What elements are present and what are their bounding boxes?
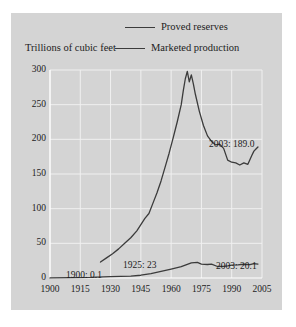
y-axis-tick-label: 200 xyxy=(10,135,46,145)
annotation-ann-2003-reserves: 2003: 189.0 xyxy=(209,140,254,150)
y-axis-tick-label: 150 xyxy=(10,169,46,179)
y-axis-tick-label: 250 xyxy=(10,100,46,110)
y-axis-tick-label: 100 xyxy=(10,204,46,214)
annotation-ann-1925: 1925: 23 xyxy=(123,261,157,271)
plot-area: 0501001502002503001900191519301945196019… xyxy=(11,13,282,310)
y-axis-tick-label: 0 xyxy=(10,273,46,283)
series-line-proved-reserves xyxy=(100,71,257,262)
annotation-ann-2003-production: 2003: 20.1 xyxy=(216,262,257,272)
chart-figure: Proved reserves Marketed production Tril… xyxy=(0,0,296,327)
y-axis-tick-label: 50 xyxy=(10,239,46,249)
chart-panel: Proved reserves Marketed production Tril… xyxy=(11,13,282,310)
y-axis-tick-label: 300 xyxy=(10,65,46,75)
x-axis-tick-label: 2005 xyxy=(242,285,282,295)
annotation-ann-1900: 1900: 0.1 xyxy=(66,271,102,281)
